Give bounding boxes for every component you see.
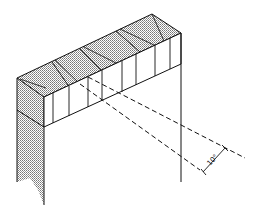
angle-dimension: 10° bbox=[201, 145, 228, 175]
beam-diagram: 10° bbox=[0, 0, 261, 215]
left-post bbox=[17, 78, 44, 205]
angle-label: 10° bbox=[206, 153, 220, 168]
